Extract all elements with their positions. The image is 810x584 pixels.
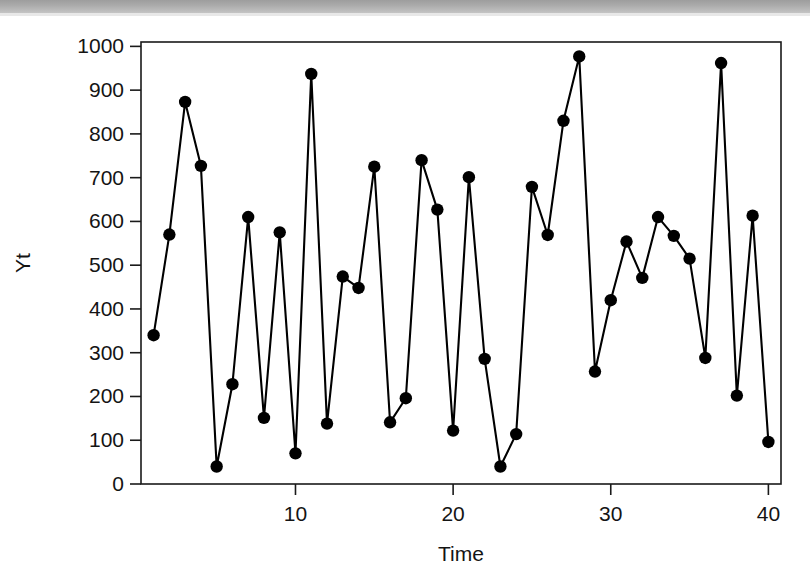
data-point [368, 161, 380, 173]
chart-figure: 01002003004005006007008009001000 1020304… [0, 16, 810, 584]
data-point [258, 412, 270, 424]
y-axis-tick-label: 500 [89, 253, 124, 276]
y-axis-tick-label: 800 [89, 122, 124, 145]
y-axis-tick-label: 1000 [77, 34, 124, 57]
x-axis-title: Time [438, 542, 484, 565]
data-point [636, 272, 648, 284]
data-point [147, 329, 159, 341]
data-point [731, 389, 743, 401]
y-axis-tick-label: 600 [89, 209, 124, 232]
data-point [510, 428, 522, 440]
data-point [337, 270, 349, 282]
data-point [242, 211, 254, 223]
data-point [321, 417, 333, 429]
data-point [746, 210, 758, 222]
data-point [415, 154, 427, 166]
data-point [557, 115, 569, 127]
y-axis-tick-label: 900 [89, 78, 124, 101]
data-point [305, 68, 317, 80]
scanned-page-banner [0, 0, 810, 13]
data-point [542, 229, 554, 241]
data-point [683, 252, 695, 264]
data-point [210, 460, 222, 472]
data-point [179, 96, 191, 108]
data-point [699, 352, 711, 364]
time-series-plot: 01002003004005006007008009001000 1020304… [0, 16, 810, 584]
data-point [163, 228, 175, 240]
data-point [463, 171, 475, 183]
data-point [431, 203, 443, 215]
y-axis-tick-label: 300 [89, 341, 124, 364]
data-point [352, 282, 364, 294]
y-axis-tick-label: 400 [89, 297, 124, 320]
x-axis-tick-label: 30 [599, 502, 622, 525]
data-point [447, 424, 459, 436]
data-point [573, 50, 585, 62]
data-point [494, 460, 506, 472]
data-point [274, 226, 286, 238]
data-point [478, 353, 490, 365]
data-point [195, 160, 207, 172]
data-point [715, 57, 727, 69]
data-point [384, 416, 396, 428]
y-axis-tick-label: 100 [89, 428, 124, 451]
data-point [289, 447, 301, 459]
x-axis-tick-label: 40 [757, 502, 780, 525]
data-point [668, 230, 680, 242]
data-point [226, 378, 238, 390]
y-axis-tick-label: 200 [89, 384, 124, 407]
x-axis-tick-label: 10 [284, 502, 307, 525]
y-axis-title: Yt [11, 253, 34, 273]
data-point [652, 211, 664, 223]
x-axis-tick-label: 20 [441, 502, 464, 525]
y-axis-tick-label: 0 [112, 472, 124, 495]
data-point [589, 365, 601, 377]
data-point [605, 294, 617, 306]
data-point [400, 392, 412, 404]
y-axis-tick-label: 700 [89, 166, 124, 189]
data-point [526, 181, 538, 193]
data-point [762, 436, 774, 448]
data-point [620, 235, 632, 247]
